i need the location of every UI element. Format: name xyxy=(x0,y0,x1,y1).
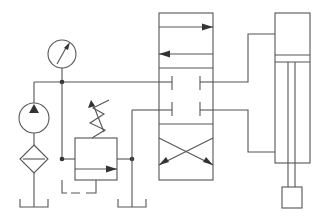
load-icon xyxy=(282,187,302,208)
pressure-gauge-icon xyxy=(48,40,76,82)
relief-valve-icon xyxy=(60,100,135,193)
actuator-lines xyxy=(213,34,275,152)
hydraulic-schematic xyxy=(0,0,323,220)
directional-valve-icon xyxy=(159,13,213,180)
cylinder-icon xyxy=(275,13,310,187)
pump-icon xyxy=(19,103,49,145)
filter-icon xyxy=(20,145,48,207)
